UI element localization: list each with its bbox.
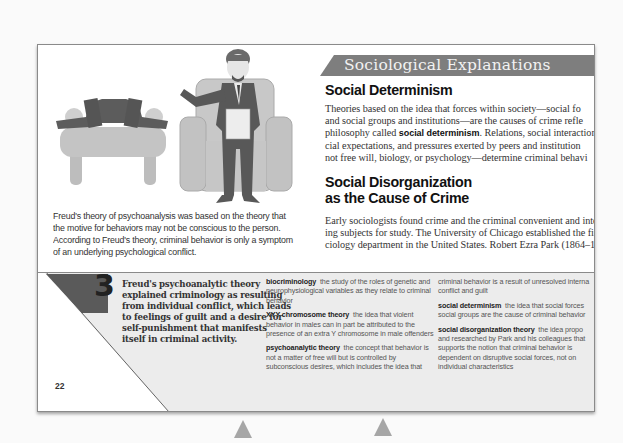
paragraph-line: not free will, biology, or psychology—de… [325,152,595,164]
glossary-line: biocriminology the study of the roles of… [266,277,436,286]
glossary-line: individual characteristics [438,362,595,371]
glossary-line: behavior in males can in part be attribu… [266,320,436,329]
glossary-term: social disorganization theory [438,325,535,334]
glossary-line: social determinism the idea that social … [438,301,595,310]
glossary-entry: social disorganization theory the idea p… [438,325,595,372]
glossary-entry: criminal behavior is a result of unresol… [438,277,595,296]
glossary-definition: the study of the roles of genetic and [320,277,430,286]
glossary-term: psychoanalytic theory [266,343,340,352]
heading-social-disorganization: Social Disorganization as the Cause of C… [325,174,472,206]
psychoanalysis-illustration [56,45,306,205]
glossary-definition: the idea that social forces [505,301,584,310]
glossary-term: biocriminology [266,277,316,286]
pointer-arrow-icon [234,420,252,438]
glossary-line: social groups are the cause of criminal … [438,310,595,319]
page-number: 22 [55,381,64,391]
glossary-column-1: biocriminology the study of the roles of… [266,277,436,377]
illustration-caption: Freud's theory of psychoanalysis was bas… [53,210,320,258]
caption-line: of an underlying psychological conflict. [53,246,320,258]
bottom-panel: 3 Freud's psychoanalytic theory explaine… [38,272,594,412]
glossary-definition: the idea that violent [353,310,413,319]
glossary-line: and researched by Park and his colleague… [438,334,595,343]
glossary-line: criminal behavior is a result of unresol… [438,277,595,286]
paragraph-line: ing subjects for study. The University o… [325,227,595,239]
paragraph-line: cial expectations, and pressures exerted… [325,140,595,152]
paragraph-line: and social groups and institutions—are t… [325,115,595,127]
glossary-entry: XYY chromosome theory the idea that viol… [266,310,436,338]
glossary-term: XYY chromosome theory [266,310,349,319]
glossary-entry: psychoanalytic theory the concept that b… [266,343,436,371]
glossary-line: presence of an extra Y chromosome in mal… [266,329,436,338]
social-disorganization-paragraph: Early sociologists found crime and the c… [325,215,595,252]
glossary-line: supports the notion that criminal behavi… [438,343,595,352]
glossary-line: XYY chromosome theory the idea that viol… [266,310,436,319]
caption-line: According to Freud's theory, criminal be… [53,234,320,246]
glossary-line: social disorganization theory the idea p… [438,325,595,334]
glossary-term: social determinism [438,301,501,310]
pointer-arrow-icon [374,418,392,436]
glossary-column-2: criminal behavior is a result of unresol… [438,277,595,377]
glossary-definition: the concept that behavior is [344,343,429,352]
social-determinism-paragraph: Theories based on the idea that forces w… [325,103,595,164]
section-banner-title: Sociological Explanations [344,55,551,76]
paragraph-line: Early sociologists found crime and the c… [325,215,595,227]
glossary-line: subconscious desires, which includes the… [266,362,436,371]
glossary-entry: social determinism the idea that social … [438,301,595,320]
glossary-line: dependent on disruptive social forces, n… [438,353,595,362]
caption-line: the motive for behaviors may not be cons… [53,222,320,234]
heading-line: Social Disorganization [325,174,472,190]
textbook-page: Freud's theory of psychoanalysis was bas… [37,44,595,412]
paragraph-line: ciology department in the United States.… [325,239,595,251]
paragraph-line: Theories based on the idea that forces w… [325,103,595,115]
heading-line: as the Cause of Crime [325,190,472,206]
bold-term: social determinism [399,128,480,138]
section-banner: Sociological Explanations [320,55,595,76]
glossary-line: neurophysiological variables as they rel… [266,286,436,295]
step-number: 3 [94,271,115,301]
paragraph-line: philosophy called social determinism. Re… [325,127,595,139]
glossary-line: not a matter of free will but is control… [266,353,436,362]
glossary-definition: the idea propo [538,325,583,334]
caption-line: Freud's theory of psychoanalysis was bas… [53,210,320,222]
glossary-entry: biocriminology the study of the roles of… [266,277,436,305]
heading-social-determinism: Social Determinism [325,82,452,98]
glossary-line: behavior [266,296,436,305]
glossary-line: conflict and guilt [438,286,595,295]
glossary-line: psychoanalytic theory the concept that b… [266,343,436,352]
